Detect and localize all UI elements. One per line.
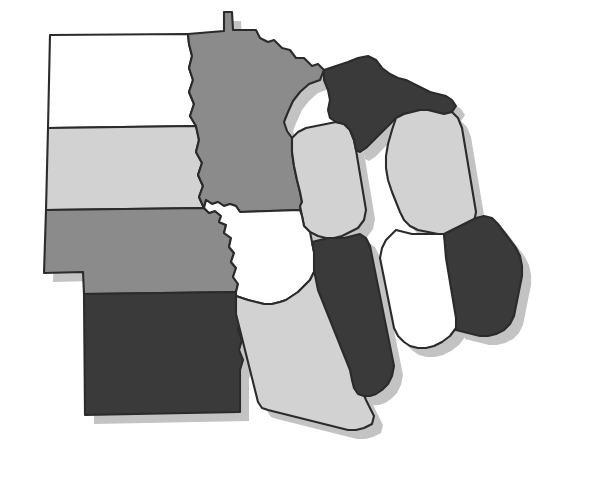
state-michigan-lower-peninsula[interactable]: Michigan Lower Peninsula [386,110,476,234]
midwest-choropleth-map: North Dakota South Dakota Nebraska Kansa… [0,0,594,478]
map-canvas: North Dakota South Dakota Nebraska Kansa… [0,0,594,478]
state-ohio[interactable]: Ohio [444,216,522,336]
map-states-layer: North Dakota South Dakota Nebraska Kansa… [44,12,522,430]
state-south-dakota[interactable]: South Dakota [46,126,204,210]
state-north-dakota[interactable]: North Dakota [48,34,196,128]
state-kansas[interactable]: Kansas [84,292,243,415]
